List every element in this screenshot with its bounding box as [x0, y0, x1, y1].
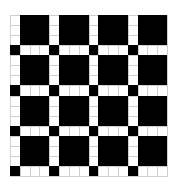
grid-cell-filled — [157, 65, 167, 75]
grid-cell-filled — [98, 65, 108, 75]
grid-cell-filled — [79, 96, 89, 106]
grid-cell-empty — [157, 45, 167, 55]
grid-cell-empty — [49, 156, 59, 166]
grid-cell-filled — [79, 136, 89, 146]
grid-cell-filled — [108, 65, 118, 75]
grid-cell-filled — [108, 136, 118, 146]
grid-cell-filled — [108, 106, 118, 116]
grid-cell-filled — [118, 25, 128, 35]
grid-cell-filled — [118, 136, 128, 146]
grid-cell-empty — [69, 85, 79, 95]
grid-cell-filled — [147, 55, 157, 65]
grid-cell-empty — [79, 126, 89, 136]
grid-cell-filled — [118, 146, 128, 156]
grid-cell-empty — [49, 35, 59, 45]
grid-cell-empty — [89, 156, 99, 166]
grid-cell-empty — [10, 55, 20, 65]
grid-cell-empty — [98, 45, 108, 55]
grid-cell-empty — [49, 15, 59, 25]
grid-cell-filled — [118, 106, 128, 116]
grid-cell-filled — [69, 25, 79, 35]
grid-cell-filled — [138, 106, 148, 116]
grid-cell-filled — [147, 65, 157, 75]
grid-cell-empty — [138, 126, 148, 136]
grid-cell-empty — [89, 75, 99, 85]
grid-cell-filled — [59, 116, 69, 126]
grid-cell-filled — [39, 15, 49, 25]
grid-cell-filled — [157, 25, 167, 35]
grid-cell-filled — [98, 96, 108, 106]
grid-cell-filled — [20, 96, 30, 106]
grid-cell-filled — [10, 166, 20, 176]
grid-cell-empty — [79, 166, 89, 176]
grid-cell-empty — [10, 65, 20, 75]
grid-cell-filled — [10, 45, 20, 55]
grid-cell-empty — [49, 146, 59, 156]
grid-cell-filled — [59, 15, 69, 25]
grid-cell-empty — [10, 96, 20, 106]
grid-cell-empty — [128, 136, 138, 146]
grid-cell-filled — [59, 55, 69, 65]
grid-cell-filled — [30, 116, 40, 126]
grid-cell-empty — [39, 85, 49, 95]
grid-cell-empty — [49, 65, 59, 75]
grid-cell-empty — [49, 55, 59, 65]
grid-cell-filled — [39, 146, 49, 156]
grid-cell-empty — [49, 116, 59, 126]
grid-cell-empty — [39, 166, 49, 176]
grid-cell-filled — [147, 156, 157, 166]
grid-cell-filled — [69, 116, 79, 126]
grid-cell-filled — [39, 65, 49, 75]
grid-cell-filled — [20, 65, 30, 75]
grid-cell-filled — [39, 156, 49, 166]
grid-cell-filled — [59, 156, 69, 166]
grid-cell-filled — [20, 116, 30, 126]
grid-cell-filled — [69, 106, 79, 116]
grid-cell-filled — [39, 96, 49, 106]
grid-cell-empty — [30, 85, 40, 95]
grid-cell-empty — [98, 166, 108, 176]
grid-cell-filled — [108, 55, 118, 65]
grid-cell-filled — [30, 156, 40, 166]
grid-cell-empty — [89, 55, 99, 65]
grid-cell-filled — [20, 136, 30, 146]
grid-cell-filled — [118, 15, 128, 25]
grid-cell-filled — [69, 146, 79, 156]
grid-cell-filled — [98, 106, 108, 116]
grid-cell-filled — [79, 15, 89, 25]
grid-cell-filled — [128, 126, 138, 136]
grid-cell-filled — [79, 35, 89, 45]
grid-cell-empty — [79, 45, 89, 55]
grid-cell-filled — [118, 65, 128, 75]
grid-cell-empty — [89, 136, 99, 146]
grid-cell-filled — [147, 136, 157, 146]
grid-cell-empty — [118, 166, 128, 176]
grid-cell-filled — [30, 146, 40, 156]
grid-cell-filled — [79, 55, 89, 65]
grid-cell-filled — [128, 166, 138, 176]
grid-cell-empty — [20, 166, 30, 176]
grid-cell-filled — [157, 55, 167, 65]
grid-cell-empty — [89, 65, 99, 75]
grid-cell-empty — [128, 146, 138, 156]
grid-cell-empty — [147, 45, 157, 55]
grid-cell-filled — [79, 156, 89, 166]
grid-cell-filled — [30, 15, 40, 25]
grid-cell-filled — [59, 35, 69, 45]
grid-cell-empty — [128, 65, 138, 75]
grid-cell-filled — [59, 106, 69, 116]
grid-cell-filled — [79, 116, 89, 126]
grid-cell-empty — [128, 96, 138, 106]
grid-cell-filled — [89, 126, 99, 136]
grid-cell-filled — [39, 35, 49, 45]
grid-cell-filled — [118, 55, 128, 65]
grid-cell-filled — [147, 146, 157, 156]
grid-cell-filled — [108, 116, 118, 126]
grid-cell-filled — [89, 45, 99, 55]
grid-cell-empty — [89, 25, 99, 35]
grid-cell-filled — [20, 25, 30, 35]
grid-cell-filled — [10, 85, 20, 95]
grid-cell-empty — [89, 96, 99, 106]
grid-cell-filled — [39, 55, 49, 65]
grid-cell-filled — [128, 45, 138, 55]
